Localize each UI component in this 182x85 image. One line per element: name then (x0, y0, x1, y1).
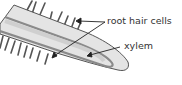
label-xylem: xylem (124, 40, 153, 51)
label-root-hair-cells: root hair cells (107, 15, 172, 26)
root-diagram (0, 0, 182, 85)
